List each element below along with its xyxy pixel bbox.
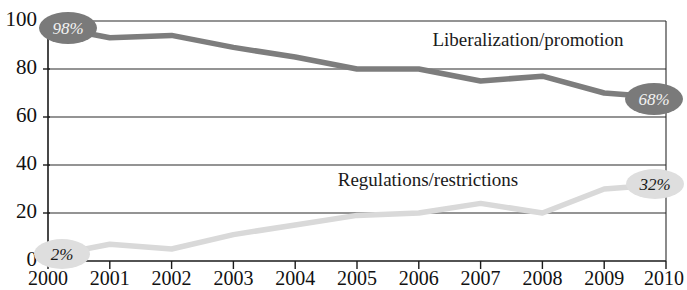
y-tick-label: 100 xyxy=(6,7,38,31)
x-tick-label: 2004 xyxy=(275,267,315,289)
badge-lib-start: 98% xyxy=(39,12,97,44)
series-label-regulations: Regulations/restrictions xyxy=(338,169,518,190)
badge-reg-start: 2% xyxy=(34,239,90,269)
x-tick-label: 2003 xyxy=(213,267,253,289)
y-axis-tick-labels: 100 80 60 40 20 0 xyxy=(6,7,38,271)
y-axis-ticks xyxy=(43,21,50,261)
x-axis-tick-labels: 2000 2001 2002 2003 2004 2005 2006 2007 … xyxy=(28,267,684,289)
chart-canvas: 100 80 60 40 20 0 xyxy=(0,0,687,290)
x-tick-label: 2000 xyxy=(28,267,68,289)
x-tick-label: 2010 xyxy=(644,267,684,289)
line-chart: 100 80 60 40 20 0 xyxy=(0,0,687,290)
x-tick-label: 2005 xyxy=(337,267,377,289)
x-tick-label: 2006 xyxy=(399,267,439,289)
badge-label: 98% xyxy=(52,19,83,38)
badge-label: 68% xyxy=(638,90,669,109)
badge-label: 2% xyxy=(51,245,74,264)
y-tick-label: 40 xyxy=(16,151,37,175)
x-tick-label: 2007 xyxy=(461,267,501,289)
series-label-liberalization: Liberalization/promotion xyxy=(432,29,624,50)
y-tick-label: 80 xyxy=(16,55,37,79)
series-line-regulations xyxy=(48,184,666,256)
x-tick-label: 2002 xyxy=(152,267,192,289)
x-tick-label: 2009 xyxy=(584,267,624,289)
badge-lib-end: 68% xyxy=(625,83,683,115)
x-tick-label: 2001 xyxy=(90,267,130,289)
badge-label: 32% xyxy=(638,175,670,194)
y-tick-label: 60 xyxy=(16,103,37,127)
y-tick-label: 20 xyxy=(16,199,37,223)
x-tick-label: 2008 xyxy=(522,267,562,289)
badge-reg-end: 32% xyxy=(626,169,684,199)
